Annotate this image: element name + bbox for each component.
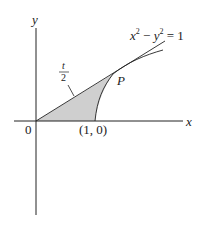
equation-label: x2 − y2 = 1 [129,27,184,43]
hyperbola-diagram: y x 0 (1, 0) P x2 − y2 = 1 t 2 [0,0,204,225]
point-p-label: P [116,73,125,88]
vertex-label: (1, 0) [79,122,107,137]
x-axis-label: x [185,114,192,129]
area-label-denominator: 2 [61,72,66,83]
y-axis-label: y [30,12,38,27]
hyperbola-curve [95,50,163,121]
origin-label: 0 [25,122,32,137]
area-leader-line [68,85,74,96]
ray-op [36,41,165,121]
area-label-numerator: t [62,60,65,71]
